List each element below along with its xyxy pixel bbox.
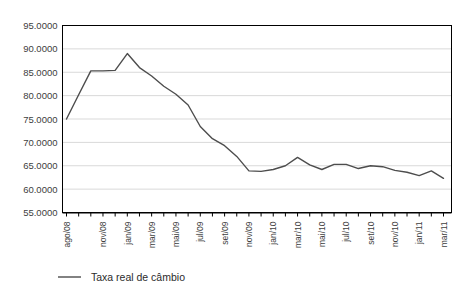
- legend-label-taxa-real-de-cambio: Taxa real de câmbio: [91, 271, 185, 283]
- x-axis-tick-label: jul/09: [195, 221, 205, 243]
- x-axis-tick-label: ago/08: [62, 221, 72, 247]
- x-axis-tick-label: jul/10: [341, 221, 351, 243]
- y-axis-tick-label: 95.0000: [23, 20, 57, 31]
- y-axis-tick-label: 55.0000: [23, 207, 57, 218]
- x-axis-tick-label: nov/09: [244, 221, 254, 247]
- chart-container: 95.000090.000085.000080.000075.000070.00…: [0, 0, 476, 294]
- y-axis-tick-label: 90.0000: [23, 43, 57, 54]
- x-axis-tick-label: set/09: [220, 221, 230, 244]
- x-axis-tick-label: mar/10: [293, 221, 303, 248]
- y-axis-tick-label: 85.0000: [23, 67, 57, 78]
- y-axis-tick-label: 75.0000: [23, 114, 57, 125]
- y-axis-tick-label: 60.0000: [23, 184, 57, 195]
- x-axis-tick-label: mar/09: [147, 221, 157, 248]
- x-axis-tick-label: nov/10: [390, 221, 400, 247]
- x-axis-tick-label: jan/11: [414, 221, 424, 245]
- x-axis-tick-label: jan/09: [123, 221, 133, 245]
- y-axis-tick-labels: 95.000090.000085.000080.000075.000070.00…: [23, 20, 57, 218]
- x-axis-tick-label: jan/10: [268, 221, 278, 245]
- y-axis-tick-label: 70.0000: [23, 137, 57, 148]
- y-axis-tick-label: 80.0000: [23, 90, 57, 101]
- y-axis-tick-label: 65.0000: [23, 160, 57, 171]
- chart-background: [0, 0, 476, 294]
- x-axis-tick-label: nov/08: [98, 221, 108, 247]
- line-chart: 95.000090.000085.000080.000075.000070.00…: [0, 0, 476, 294]
- x-axis-tick-label: mar/11: [439, 221, 449, 247]
- x-axis-tick-label: set/10: [366, 221, 376, 244]
- x-axis-tick-label: mai/09: [171, 221, 181, 247]
- x-axis-tick-label: mai/10: [317, 221, 327, 247]
